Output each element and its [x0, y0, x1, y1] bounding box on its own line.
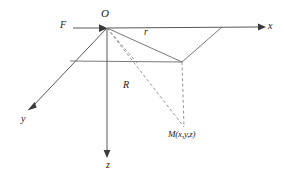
R-radius-label: R — [123, 80, 129, 90]
plane-horizontal-edge — [70, 61, 182, 62]
coordinate-axes-svg — [0, 0, 284, 177]
y-axis-label: y — [21, 114, 25, 124]
point-m-label: M(x,y,z) — [168, 130, 195, 139]
plane-diagonal-edge — [182, 27, 222, 62]
R-segment-dashed — [107, 28, 184, 127]
origin-label: O — [101, 8, 109, 19]
z-axis-arrow-icon — [104, 150, 111, 158]
y-axis-line — [32, 28, 107, 107]
vertical-drop-dashed — [182, 62, 184, 127]
x-axis-line — [107, 27, 258, 28]
focus-label: F — [60, 20, 66, 30]
figure-canvas: O F x y z r R M(x,y,z) — [0, 0, 284, 177]
r-radius-label: r — [144, 27, 148, 37]
z-axis-label: z — [106, 160, 110, 170]
x-axis-arrow-icon — [258, 24, 266, 31]
x-axis-label: x — [268, 21, 272, 31]
construction-dashed-ray — [107, 28, 138, 64]
